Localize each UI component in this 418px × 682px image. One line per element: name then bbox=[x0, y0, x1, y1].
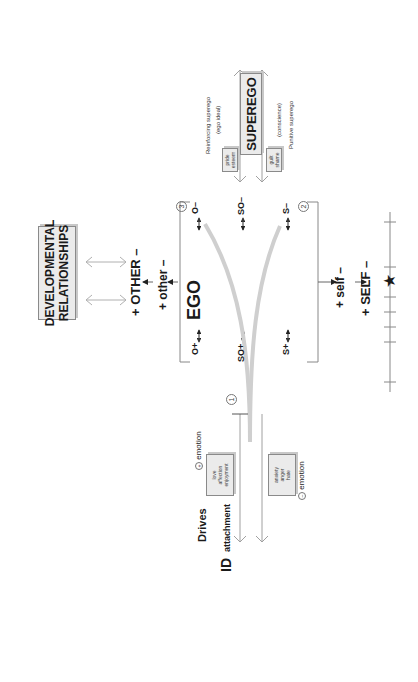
minus-circle-icon: – bbox=[298, 492, 306, 500]
enjoyment-label: enjoyment bbox=[223, 463, 229, 486]
drives-label: Drives bbox=[196, 508, 208, 542]
emotion-text: emotion bbox=[194, 431, 203, 459]
ego-label: EGO bbox=[184, 280, 205, 320]
node-o-plus: O+ bbox=[190, 343, 200, 355]
conscience-label: (conscience) bbox=[275, 103, 283, 137]
positive-emotion-box: love affection enjoyment bbox=[206, 454, 234, 496]
positive-emotion-label: + emotion bbox=[194, 431, 203, 470]
node-so-minus: SO– bbox=[236, 197, 246, 215]
diagram-canvas: DEVELOPMENTAL RELATIONSHIPS + OTHER – + … bbox=[0, 0, 418, 682]
ego-ideal-label: (ego ideal) bbox=[214, 106, 222, 134]
id-label: ID bbox=[218, 558, 234, 572]
negative-emotion-label: – emotion bbox=[297, 461, 306, 500]
title-line-2: RELATIONSHIPS bbox=[57, 225, 71, 321]
plus-circle-icon: + bbox=[195, 462, 203, 470]
other-upper-label: + OTHER – bbox=[128, 248, 143, 316]
self-lower-label: + SELF – bbox=[358, 261, 373, 316]
shame-label: shame bbox=[274, 153, 280, 168]
title-line-1: DEVELOPMENTAL bbox=[43, 220, 57, 326]
star-icon: ★ bbox=[380, 274, 399, 288]
other-lower-label: + other – bbox=[156, 260, 170, 310]
self-upper-label: + self – bbox=[333, 267, 347, 308]
negative-emotion-box: anxiety anger hate bbox=[268, 454, 296, 496]
superego-label: SUPEREGO bbox=[244, 77, 259, 151]
developmental-relationships-box: DEVELOPMENTAL RELATIONSHIPS bbox=[38, 226, 76, 320]
node-so-plus: SO+ bbox=[236, 344, 246, 362]
hate-label: hate bbox=[285, 470, 291, 480]
esteem-label: esteem bbox=[230, 152, 236, 168]
punitive-superego-label: Punitive superego bbox=[287, 101, 295, 149]
node-s-minus: S– bbox=[281, 203, 291, 214]
guilt-shame-box: guilt shame bbox=[266, 148, 282, 172]
attachment-label: attachment bbox=[222, 504, 232, 552]
marker-3: 3 bbox=[176, 201, 187, 212]
pride-esteem-box: pride esteem bbox=[222, 148, 238, 172]
reinforcing-superego-label: Reinforcing superego bbox=[204, 97, 212, 154]
emotion-text: emotion bbox=[297, 461, 306, 489]
marker-2: 2 bbox=[298, 201, 309, 212]
superego-box: SUPEREGO bbox=[240, 73, 262, 155]
node-s-plus: S+ bbox=[281, 344, 291, 355]
marker-1: 1 bbox=[226, 394, 237, 405]
node-o-minus: O– bbox=[190, 202, 200, 214]
